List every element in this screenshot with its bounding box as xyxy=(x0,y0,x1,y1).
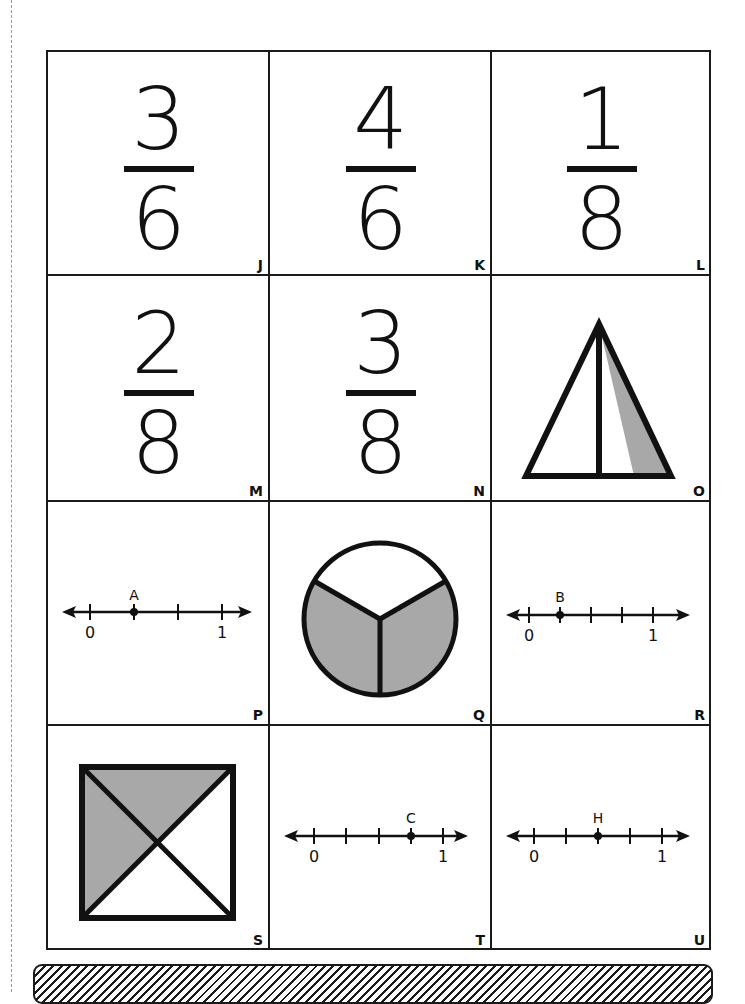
svg-text:C: C xyxy=(406,810,416,826)
svg-text:0: 0 xyxy=(309,847,319,866)
svg-text:H: H xyxy=(593,810,604,826)
card-t[interactable]: C 0 1 T xyxy=(270,726,491,950)
number-line-fourths: H 0 1 xyxy=(492,726,711,950)
card-grid: 3 6 J 4 6 K 1 8 L 2 8 M 3 8 xyxy=(46,50,711,950)
svg-text:1: 1 xyxy=(217,623,227,642)
card-letter: M xyxy=(249,484,263,498)
card-letter: N xyxy=(473,484,485,498)
number-line-thirds: A 0 1 xyxy=(48,502,269,725)
card-letter: J xyxy=(258,258,263,272)
card-s[interactable]: S xyxy=(48,726,269,950)
card-letter: P xyxy=(253,708,263,722)
card-letter: O xyxy=(693,484,705,498)
hatched-footer-bar xyxy=(33,964,713,1004)
card-letter: S xyxy=(253,933,263,947)
triangle-half-shaded-icon xyxy=(492,276,711,501)
svg-text:0: 0 xyxy=(85,623,95,642)
card-q[interactable]: Q xyxy=(270,502,491,725)
card-p[interactable]: A 0 1 P xyxy=(48,502,269,725)
fraction: 2 8 xyxy=(48,276,269,501)
svg-text:B: B xyxy=(555,589,565,605)
number-line-fourths: B 0 1 xyxy=(492,502,711,725)
card-letter: L xyxy=(696,258,705,272)
denominator: 8 xyxy=(492,176,711,262)
card-o[interactable]: O xyxy=(492,276,711,501)
numerator: 2 xyxy=(48,300,269,386)
svg-text:1: 1 xyxy=(648,626,658,645)
card-u[interactable]: H 0 1 U xyxy=(492,726,711,950)
fraction: 4 6 xyxy=(270,52,491,275)
card-n[interactable]: 3 8 N xyxy=(270,276,491,501)
denominator: 8 xyxy=(48,400,269,486)
card-letter: R xyxy=(694,708,705,722)
card-l[interactable]: 1 8 L xyxy=(492,52,711,275)
numerator: 3 xyxy=(48,76,269,162)
svg-text:1: 1 xyxy=(438,847,448,866)
numerator: 1 xyxy=(492,76,711,162)
fraction: 3 6 xyxy=(48,52,269,275)
svg-text:0: 0 xyxy=(524,626,534,645)
card-letter: K xyxy=(474,258,485,272)
dashed-cut-line xyxy=(11,0,12,992)
svg-text:A: A xyxy=(129,587,139,603)
card-letter: T xyxy=(475,933,485,947)
card-letter: U xyxy=(694,933,705,947)
number-line-fourths: C 0 1 xyxy=(270,726,491,950)
denominator: 8 xyxy=(270,400,491,486)
denominator: 6 xyxy=(270,176,491,262)
circle-thirds-shaded-icon xyxy=(270,502,491,725)
svg-text:1: 1 xyxy=(657,847,667,866)
numerator: 3 xyxy=(270,300,491,386)
card-letter: Q xyxy=(473,708,485,722)
numerator: 4 xyxy=(270,76,491,162)
fraction: 1 8 xyxy=(492,52,711,275)
fraction: 3 8 xyxy=(270,276,491,501)
square-quarters-shaded-icon xyxy=(48,726,269,950)
card-j[interactable]: 3 6 J xyxy=(48,52,269,275)
card-k[interactable]: 4 6 K xyxy=(270,52,491,275)
card-r[interactable]: B 0 1 R xyxy=(492,502,711,725)
svg-text:0: 0 xyxy=(529,847,539,866)
card-m[interactable]: 2 8 M xyxy=(48,276,269,501)
denominator: 6 xyxy=(48,176,269,262)
